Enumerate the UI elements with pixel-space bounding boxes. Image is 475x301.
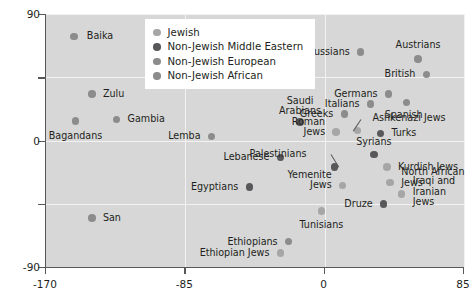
data-point [339, 182, 347, 190]
point-label: Austrians [358, 40, 475, 50]
x-axis-tick-label: -170 [15, 278, 75, 290]
point-label: Germans [258, 89, 378, 99]
point-label: Druze [253, 199, 373, 209]
point-label: Syrians [314, 137, 434, 147]
data-point [285, 238, 293, 246]
point-label: Palestinians [187, 149, 307, 159]
legend-item-jewish: Jewish [153, 25, 303, 40]
x-axis-tick [324, 267, 325, 274]
x-axis-tick-label: -85 [154, 278, 214, 290]
point-label: YemeniteJews [212, 170, 332, 191]
gridline-vertical [464, 14, 465, 267]
point-label: San [103, 213, 223, 223]
scatter-plot-figure: BaikaZuluBagandansGambiaSanLembaEthiopia… [0, 0, 475, 301]
legend-swatch-icon [153, 58, 161, 66]
legend-item-non-jewish-european: Non-Jewish European [153, 54, 303, 69]
data-point [414, 55, 422, 63]
legend-item-non-jewish-african: Non-Jewish African [153, 69, 303, 84]
data-point [403, 99, 411, 107]
y-axis-line [45, 14, 46, 267]
data-point [367, 100, 375, 108]
data-point [398, 190, 406, 198]
gridline-horizontal [46, 14, 464, 15]
legend-label: Jewish [168, 27, 200, 38]
legend-label: Non-Jewish African [168, 70, 264, 81]
legend-swatch-icon [153, 43, 161, 51]
data-point [88, 90, 96, 98]
data-point [380, 200, 388, 208]
y-axis-tick-label: 0 [33, 135, 40, 147]
point-label: Tunisians [261, 220, 381, 230]
legend: JewishNon-Jewish Middle EasternNon-Jewis… [145, 19, 315, 89]
data-point [370, 151, 378, 159]
point-label: Italians [240, 99, 360, 109]
point-label: Zulu [103, 89, 223, 99]
data-point [70, 33, 78, 41]
point-label: Lemba [81, 131, 201, 141]
data-point [277, 249, 285, 257]
x-axis-line [45, 267, 464, 268]
legend-label: Non-Jewish Middle Eastern [168, 41, 304, 52]
y-axis-tick-label: 90 [27, 8, 40, 20]
data-point [332, 128, 340, 136]
point-label: RomanJews [205, 117, 325, 138]
x-axis-tick-label: 0 [294, 278, 354, 290]
data-point [113, 116, 121, 124]
data-point [88, 214, 96, 222]
data-point [383, 163, 391, 171]
x-axis-tick-label: 85 [433, 278, 475, 290]
data-point [72, 117, 80, 125]
x-axis-tick [184, 267, 185, 274]
point-label: Ethiopian Jews [149, 248, 269, 258]
y-axis-tick-label: -90 [23, 261, 40, 273]
legend-item-non-jewish-middle-eastern: Non-Jewish Middle Eastern [153, 40, 303, 55]
point-label: Iraqi andIranianJews [413, 176, 475, 207]
legend-label: Non-Jewish European [168, 56, 277, 67]
x-axis-tick [45, 267, 46, 274]
point-label: Ethiopians [158, 237, 278, 247]
x-axis-tick [463, 267, 464, 274]
legend-swatch-icon [153, 29, 161, 37]
y-axis-tick [38, 77, 45, 78]
data-point [385, 90, 393, 98]
y-axis-tick [38, 204, 45, 205]
legend-swatch-icon [153, 72, 161, 80]
data-point [386, 179, 394, 187]
point-label: Spanish [344, 110, 464, 120]
